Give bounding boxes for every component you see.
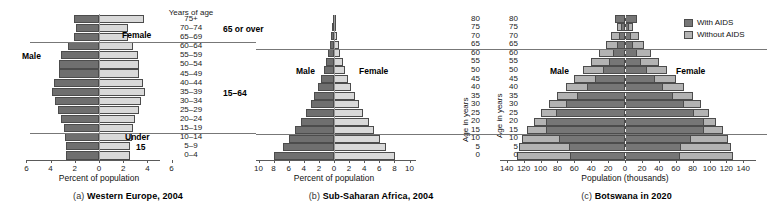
- age-group-label: 75+: [162, 14, 220, 23]
- caption-c-id: (c): [581, 191, 592, 201]
- x-tick: [334, 160, 335, 163]
- bar-female-with-aids: [625, 135, 691, 143]
- x-tick: [259, 160, 260, 163]
- panel-western-europe: 6420246Percent of populationYears of age…: [0, 0, 256, 205]
- bar-male: [306, 109, 334, 117]
- x-tick: [541, 160, 542, 163]
- bar-female: [334, 109, 363, 117]
- age-group-label: 15–19: [162, 123, 220, 132]
- y-axis-title-c: Age in years: [495, 94, 504, 138]
- age-group-label: 35–39: [162, 87, 220, 96]
- x-tick: [642, 160, 643, 163]
- x-tick: [410, 160, 411, 163]
- x-tick: [123, 160, 124, 163]
- bar-female-with-aids: [625, 100, 684, 108]
- panel-botswana: 14012010080604020020406080100120140Popul…: [486, 0, 767, 205]
- bar-female: [99, 151, 130, 159]
- age-group-label: 40–44: [162, 78, 220, 87]
- x-tick: [693, 160, 694, 163]
- bar-female: [99, 79, 143, 87]
- age-group-label: 45–49: [162, 69, 220, 78]
- bar-female: [99, 97, 141, 105]
- divider-65-plus: [486, 49, 767, 50]
- x-tick-label: 6: [16, 164, 36, 173]
- bar-female-with-aids: [625, 58, 641, 66]
- without-aids-swatch: [684, 31, 693, 39]
- bar-female: [334, 100, 359, 108]
- x-tick-label: 4: [41, 164, 61, 173]
- x-tick: [99, 160, 100, 163]
- x-tick: [289, 160, 290, 163]
- bar-female-with-aids: [625, 109, 694, 117]
- x-tick: [75, 160, 76, 163]
- bar-male-with-aids: [566, 100, 625, 108]
- age-tick-label: 70: [464, 31, 480, 40]
- female-label-a: Female: [122, 30, 151, 40]
- age-tick-label: 65: [464, 39, 480, 48]
- x-axis-line-a: [26, 160, 160, 161]
- legend-item: With AIDS: [684, 18, 745, 27]
- bar-male: [74, 33, 99, 41]
- bar-female: [334, 126, 374, 134]
- x-axis-title-a: Percent of population: [39, 173, 159, 183]
- bar-male: [295, 126, 334, 134]
- x-tick-label: 0: [89, 164, 109, 173]
- x-tick-label: 140: [732, 164, 754, 173]
- bar-male: [52, 88, 99, 96]
- bar-male: [55, 97, 99, 105]
- with-aids-swatch: [684, 19, 693, 27]
- x-tick-label: 10: [400, 164, 420, 173]
- age-tick-label: 0: [464, 150, 480, 159]
- x-axis-title-c: Population (thousands): [555, 173, 695, 183]
- group-label-15-64: 15–64: [223, 88, 247, 98]
- bar-male-with-aids: [577, 92, 625, 100]
- bar-female: [334, 118, 369, 126]
- caption-b-id: (b): [309, 191, 320, 201]
- age-tick-label: 40: [464, 82, 480, 91]
- male-label-c: Male: [550, 66, 569, 76]
- age-tick-label: 50: [464, 65, 480, 74]
- bar-female: [334, 143, 386, 151]
- center-axis-line: [99, 14, 100, 160]
- bar-female: [334, 66, 345, 74]
- bar-male: [283, 143, 334, 151]
- bar-female: [99, 51, 138, 59]
- bar-male: [326, 58, 334, 66]
- bar-male: [274, 152, 334, 160]
- caption-b-text: Sub-Saharan Africa, 2004: [323, 191, 434, 201]
- bar-male: [289, 135, 334, 143]
- female-label-c: Female: [676, 66, 705, 76]
- age-tick-label: 40: [502, 82, 518, 91]
- bar-male: [76, 24, 99, 32]
- x-tick: [26, 160, 27, 163]
- bar-female: [334, 152, 395, 160]
- x-tick: [394, 160, 395, 163]
- age-group-label: 55–59: [162, 50, 220, 59]
- age-group-label: 25–29: [162, 105, 220, 114]
- age-tick-label: 75: [464, 22, 480, 31]
- legend-botswana: With AIDSWithout AIDS: [684, 18, 745, 42]
- age-group-label: 0–4: [162, 150, 220, 159]
- divider-65-plus: [256, 49, 486, 50]
- group-label-under-15-line1: Under: [125, 132, 150, 142]
- bar-male-with-aids: [556, 109, 625, 117]
- male-label-b: Male: [296, 66, 315, 76]
- x-tick: [51, 160, 52, 163]
- bar-male-with-aids: [613, 49, 625, 57]
- age-tick-label: 55: [502, 56, 518, 65]
- divider-65-plus: [30, 42, 256, 43]
- bar-male: [314, 92, 334, 100]
- age-tick-label: 70: [502, 31, 518, 40]
- x-tick: [379, 160, 380, 163]
- x-tick: [676, 160, 677, 163]
- bar-male: [318, 83, 334, 91]
- caption-c-text: Botswana in 2020: [595, 191, 672, 201]
- legend-label: With AIDS: [697, 18, 733, 27]
- bar-female: [334, 83, 351, 91]
- bar-male: [61, 51, 99, 59]
- bar-female: [99, 69, 139, 77]
- caption-b: (b) Sub-Saharan Africa, 2004: [256, 191, 486, 201]
- age-group-label: 50–54: [162, 59, 220, 68]
- bar-male-with-aids: [587, 83, 625, 91]
- x-tick: [625, 160, 626, 163]
